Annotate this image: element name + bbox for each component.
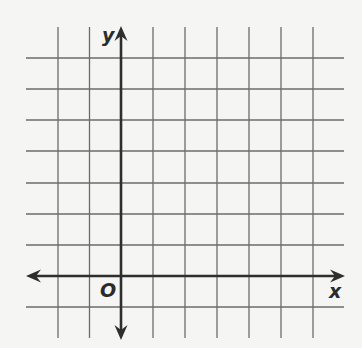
origin-label: O [100, 281, 116, 300]
y-axis-label: y [102, 26, 114, 45]
coordinate-grid [0, 0, 362, 348]
x-axis-label: x [329, 282, 341, 301]
grid-lines [26, 27, 344, 338]
